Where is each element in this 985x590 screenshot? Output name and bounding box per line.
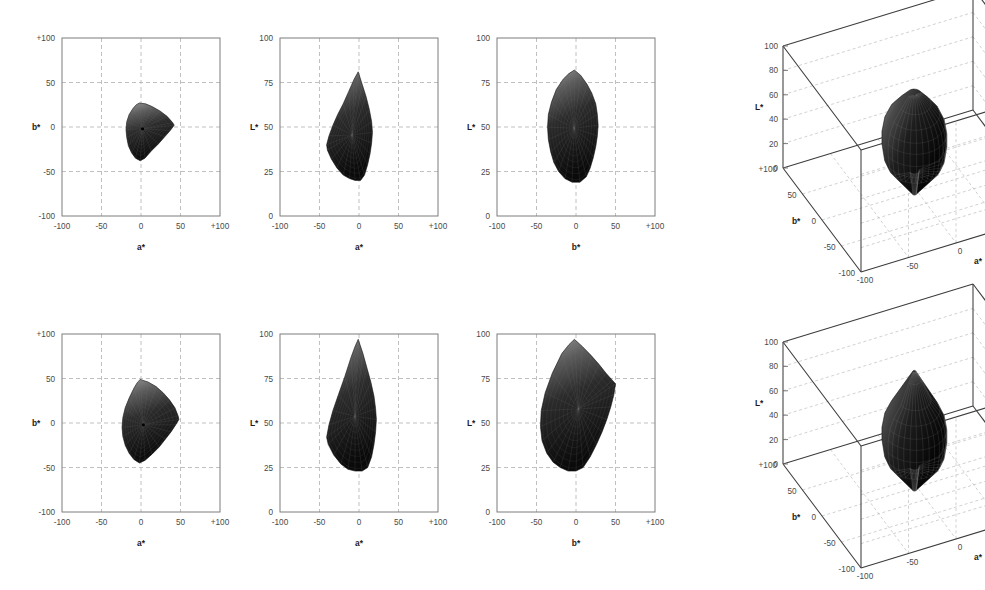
panel-row2-ab: -100-50050+100-100-50050+100a*b*: [0, 296, 250, 590]
cube-edge-top-right: [973, 0, 985, 92]
plot-row2-ab: -100-50050+100-100-50050+100a*b*: [0, 296, 250, 590]
z-tick-label: 80: [769, 362, 779, 371]
y-tick-label: 0: [811, 513, 816, 522]
y-axis-title: b*: [792, 216, 801, 226]
z-axis-title: L*: [755, 398, 764, 408]
plot-row1-La: -100-50050+1000255075100a*L*: [218, 0, 468, 290]
y-tick-label: 100: [476, 330, 490, 339]
x-tick-label: -50: [96, 222, 108, 231]
gamut-solid: [327, 72, 373, 181]
y-axis-title: b*: [792, 512, 801, 522]
z-tick-label: 20: [769, 140, 779, 149]
y-tick-label: -100: [39, 508, 56, 517]
x-tick-label: 0: [139, 222, 144, 231]
cube-gridline-wall: [861, 486, 985, 544]
y-tick-label: -50: [43, 464, 55, 473]
y-tick-label: 50: [787, 191, 797, 200]
y-axis-title: L*: [467, 122, 476, 132]
cube-gridline-wall: [783, 357, 973, 415]
cube-gridline-wall: [973, 86, 985, 190]
y-tick-label: 0: [485, 212, 490, 221]
z-tick-label: 40: [769, 411, 779, 420]
plot-row2-Lb: -100-50050+1000255075100b*L*: [435, 296, 685, 590]
y-tick-label: 50: [264, 123, 274, 132]
x-axis-title: a*: [137, 538, 146, 548]
z-tick-label: 60: [769, 91, 779, 100]
y-tick-label: 100: [476, 34, 490, 43]
y-tick-label: +100: [759, 165, 778, 174]
x-tick-label: -50: [531, 222, 543, 231]
y-tick-label: -50: [824, 243, 836, 252]
x-tick-label: -100: [272, 518, 289, 527]
y-tick-label: -100: [839, 269, 856, 278]
y-axis-title: b*: [32, 418, 41, 428]
y-tick-label: 50: [46, 375, 56, 384]
gamut-solid: [122, 379, 179, 463]
y-tick-label: +100: [759, 461, 778, 470]
cube-edge-floor-back: [861, 510, 985, 568]
y-tick-label: 75: [264, 375, 274, 384]
z-tick-label: 100: [764, 338, 778, 347]
cube-edge-top-left: [783, 46, 861, 150]
x-tick-label: 0: [139, 518, 144, 527]
y-tick-label: 75: [481, 79, 491, 88]
cube-edge-top-right: [973, 284, 985, 388]
cube-gridline-wall: [783, 37, 973, 95]
cube-edge-top-left: [783, 342, 861, 446]
x-tick-label: -100: [857, 572, 874, 581]
x-tick-label: 50: [176, 518, 186, 527]
x-tick-label: -100: [54, 222, 71, 231]
x-tick-label: -100: [54, 518, 71, 527]
y-tick-label: 25: [481, 464, 491, 473]
gamut-solid-3d: [882, 370, 947, 491]
y-tick-label: 75: [264, 79, 274, 88]
y-tick-label: 50: [787, 487, 797, 496]
y-axis-title: L*: [467, 418, 476, 428]
x-axis-title: a*: [137, 242, 146, 252]
x-tick-label: -100: [489, 222, 506, 231]
y-tick-label: 25: [264, 464, 274, 473]
plot-row2-La: -100-50050+1000255075100a*L*: [218, 296, 468, 590]
y-tick-label: 50: [481, 419, 491, 428]
cube-edge-top-front: [783, 0, 973, 46]
cube-gridline-wall: [783, 12, 973, 70]
x-tick-label: -50: [96, 518, 108, 527]
z-tick-label: 20: [769, 436, 779, 445]
cube-gridline-wall: [973, 382, 985, 486]
y-tick-label: 25: [264, 168, 274, 177]
plot-row1-Lb: -100-50050+1000255075100b*L*: [435, 0, 685, 290]
y-axis-title: L*: [250, 418, 259, 428]
x-tick-label: 50: [176, 222, 186, 231]
x-tick-label: -50: [314, 518, 326, 527]
cube-edge-floor-right: [973, 406, 985, 510]
y-tick-label: 50: [46, 79, 56, 88]
gamut-fill: [126, 103, 174, 161]
x-tick-label: 0: [958, 247, 963, 256]
cube-gridline-wall: [973, 333, 985, 437]
cube-gridline-wall: [783, 333, 973, 391]
x-tick-label: 50: [611, 222, 621, 231]
panel-row1-ab: -100-50050+100-100-50050+100a*b*: [0, 0, 250, 290]
x-tick-label: 50: [611, 518, 621, 527]
gamut-solid: [327, 339, 377, 471]
y-tick-label: 0: [268, 508, 273, 517]
y-tick-label: -100: [39, 212, 56, 221]
gamut-center-point: [141, 127, 144, 130]
x-tick-label: 0: [958, 543, 963, 552]
x-tick-label: -50: [314, 222, 326, 231]
x-tick-label: +100: [646, 222, 665, 231]
y-tick-label: +100: [37, 34, 56, 43]
panel-row2-3d: 020406080100L*+100500-50-100b*-100-50050…: [665, 296, 985, 590]
panel-row2-La: -100-50050+1000255075100a*L*: [218, 296, 468, 590]
y-tick-label: -50: [43, 168, 55, 177]
y-tick-label: 100: [259, 330, 273, 339]
x-axis-title: a*: [974, 256, 983, 266]
y-tick-label: 0: [268, 212, 273, 221]
z-tick-label: 100: [764, 42, 778, 51]
cube-edge-floor-right: [973, 110, 985, 214]
cube-gridline-wall: [973, 12, 985, 116]
z-tick-label: 80: [769, 66, 779, 75]
panel-row1-3d: 020406080100L*+100500-50-100b*-100-50050…: [665, 0, 985, 295]
y-tick-label: 0: [50, 123, 55, 132]
cube-gridline-wall: [973, 308, 985, 412]
